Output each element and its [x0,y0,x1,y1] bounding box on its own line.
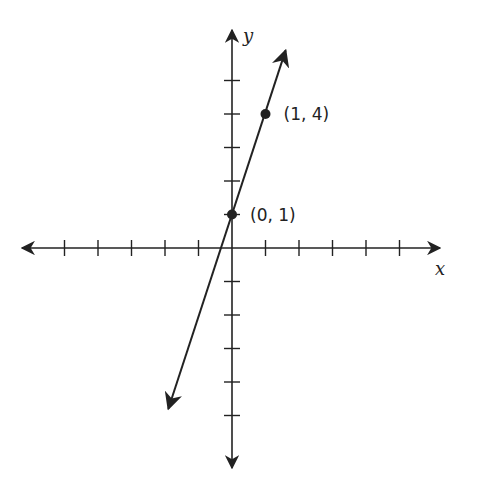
point-label: (0, 1) [250,205,296,225]
point-marker [227,210,237,220]
plotted-points: (0, 1)(1, 4) [227,104,329,225]
point-marker [261,109,271,119]
graph-line [168,50,285,408]
coordinate-plane: (0, 1)(1, 4) x y [0,0,477,490]
point-label: (1, 4) [284,104,330,124]
x-axis-label: x [435,258,445,279]
y-axis-label: y [242,25,254,46]
